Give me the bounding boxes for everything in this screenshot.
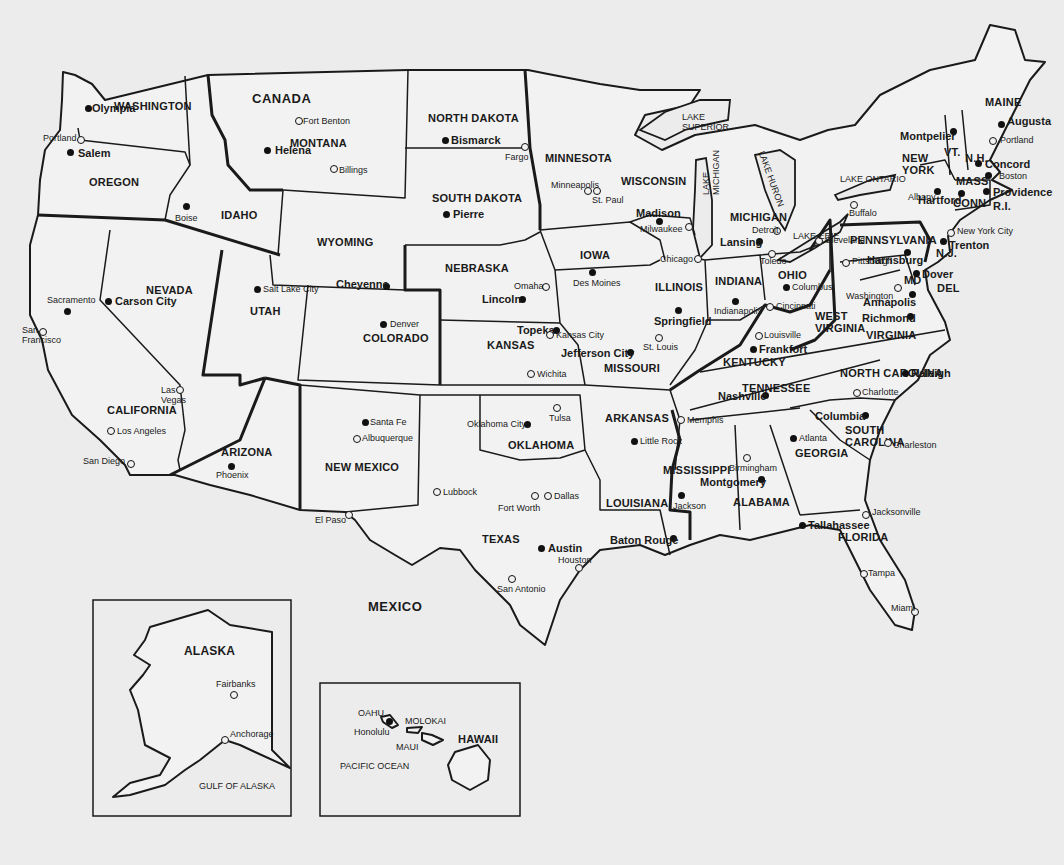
city-label: Pittsburgh [852, 257, 893, 266]
city-ring-icon [521, 143, 529, 151]
capital-dot-icon [750, 346, 757, 353]
state-label: FLORIDA [838, 532, 888, 543]
city-ring-icon [755, 332, 763, 340]
city-ring-icon [221, 736, 229, 744]
capital-label: Salem [78, 148, 110, 159]
capital-dot-icon [380, 321, 387, 328]
capital-label: Montpelier [900, 131, 956, 142]
state-label: OKLAHOMA [508, 440, 574, 451]
capital-label: Madison [636, 208, 681, 219]
city-label: El Paso [315, 516, 346, 525]
city-ring-icon [77, 136, 85, 144]
city-ring-icon [766, 303, 774, 311]
capital-dot-icon [538, 545, 545, 552]
city-label: St. Paul [592, 196, 624, 205]
capital-label: Columbia [815, 411, 865, 422]
capital-label: Nashville [718, 391, 766, 402]
capital-label: Boston [999, 172, 1027, 181]
island-label-oahu: OAHU [358, 709, 384, 718]
capital-dot-icon [64, 308, 71, 315]
city-label: Chicago [660, 255, 693, 264]
state-label: WYOMING [317, 237, 373, 248]
city-ring-icon [330, 165, 338, 173]
city-label: Detroit [752, 226, 779, 235]
capital-label: Cheyenne [336, 279, 389, 290]
capital-label: Denver [390, 320, 419, 329]
hawaii-inset-frame [320, 683, 520, 816]
capital-label: Augusta [1007, 116, 1051, 127]
capital-dot-icon [985, 172, 992, 179]
state-label: NEW MEXICO [325, 462, 399, 473]
state-label: IOWA [580, 250, 610, 261]
city-ring-icon [677, 416, 685, 424]
city-label: Anchorage [230, 730, 274, 739]
city-ring-icon [862, 511, 870, 519]
state-label: ARIZONA [221, 447, 273, 458]
capital-label: Providence [993, 187, 1052, 198]
city-ring-icon [433, 488, 441, 496]
island-label-hawaii: HAWAII [458, 734, 498, 745]
city-ring-icon [743, 454, 751, 462]
city-label: Portland [43, 134, 77, 143]
state-label: ALABAMA [733, 497, 790, 508]
city-label: SanFrancisco [22, 326, 61, 346]
city-ring-icon [894, 284, 902, 292]
capital-label: Helena [275, 145, 311, 156]
capital-label: Sacramento [47, 296, 96, 305]
capital-dot-icon [783, 284, 790, 291]
capital-dot-icon [183, 203, 190, 210]
city-label: Milwaukee [640, 225, 683, 234]
gulf-of-alaska-label: GULF OF ALASKA [199, 782, 275, 791]
city-label: Washington [846, 292, 893, 301]
capital-label: Concord [985, 159, 1030, 170]
state-label: IDAHO [221, 210, 257, 221]
state-label: ILLINOIS [655, 282, 703, 293]
state-label: DEL [937, 283, 960, 294]
state-label: MISSISSIPPI [663, 465, 731, 476]
capital-label: Frankfort [759, 344, 807, 355]
capital-label: Lansing [720, 237, 762, 248]
city-ring-icon [853, 389, 861, 397]
capital-dot-icon [675, 307, 682, 314]
capital-label: Jackson [673, 502, 706, 511]
molokai-island [407, 727, 422, 733]
state-label: MASS [956, 176, 989, 187]
capital-dot-icon [902, 370, 909, 377]
capital-dot-icon [362, 419, 369, 426]
city-label: Fairbanks [216, 680, 256, 689]
capital-label: Des Moines [573, 279, 621, 288]
capital-label: Montgomery [700, 477, 766, 488]
city-label: Toledo [760, 257, 787, 266]
state-label: COLORADO [363, 333, 429, 344]
state-label: TEXAS [482, 534, 520, 545]
capital-dot-icon [913, 270, 920, 277]
capital-dot-icon [443, 211, 450, 218]
capital-dot-icon [67, 149, 74, 156]
city-label: New York City [957, 227, 1013, 236]
city-label: Buffalo [849, 209, 877, 218]
city-label: Los Angeles [117, 427, 166, 436]
lake-label: LAKE ERIE [793, 232, 840, 241]
capital-label: Austin [548, 543, 582, 554]
city-label: Wichita [537, 370, 567, 379]
state-label: NORTH DAKOTA [428, 113, 519, 124]
state-label: OHIO [778, 270, 807, 281]
state-label: KANSAS [487, 340, 535, 351]
state-label: MD [904, 275, 922, 286]
city-ring-icon [685, 223, 693, 231]
city-ring-icon [127, 460, 135, 468]
pacific-ocean-label: PACIFIC OCEAN [340, 762, 409, 771]
capital-dot-icon [975, 160, 982, 167]
capital-label: Jefferson City [561, 348, 634, 359]
capital-label: Tallahassee [808, 520, 870, 531]
city-label: Cincinnati [776, 302, 816, 311]
state-label: VT. [944, 147, 961, 158]
capital-dot-icon [254, 286, 261, 293]
city-label: San Antonio [497, 585, 546, 594]
capital-label: Trenton [949, 240, 989, 251]
state-label: R.I. [993, 201, 1011, 212]
city-label: Fargo [505, 153, 529, 162]
capital-dot-icon [678, 492, 685, 499]
capital-dot-icon [790, 435, 797, 442]
state-label: WISCONSIN [621, 176, 686, 187]
